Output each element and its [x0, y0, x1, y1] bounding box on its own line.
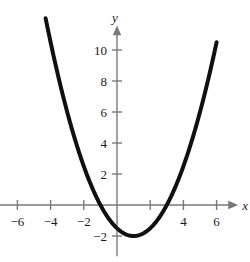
y-tick-label: 8: [101, 75, 108, 88]
x-tick-label: −2: [77, 215, 91, 228]
y-axis-arrow: [113, 25, 121, 35]
x-tick-label: 4: [180, 215, 187, 228]
x-axis-label: x: [242, 199, 248, 212]
y-axis-label: y: [112, 11, 118, 24]
y-tick-label: 10: [94, 44, 107, 57]
y-tick-label: 4: [101, 137, 108, 150]
axes-group: [0, 25, 238, 256]
y-tick-label: −2: [93, 230, 107, 243]
x-tick-label: 6: [213, 215, 220, 228]
parabola-curve: [46, 18, 217, 236]
parabola-graph-figure: −6−4−246108642−2 x y: [0, 0, 250, 262]
x-tick-label: −4: [44, 215, 58, 228]
x-tick-label: −6: [10, 215, 24, 228]
y-tick-label: 6: [101, 106, 108, 119]
x-axis-arrow: [228, 201, 238, 209]
y-tick-label: 2: [101, 168, 108, 181]
